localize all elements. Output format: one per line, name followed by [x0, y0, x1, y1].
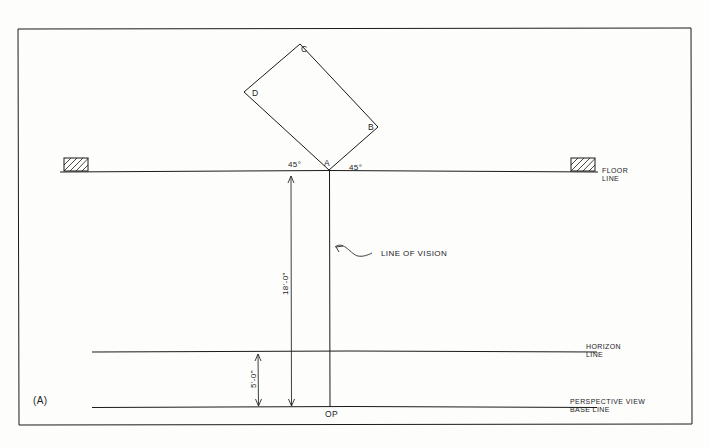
vertex-label-c: C: [301, 44, 308, 54]
vertex-label-a: A: [324, 158, 330, 168]
vertex-label-b: B: [368, 122, 374, 132]
floor-line-label-1: FLOOR: [602, 167, 628, 174]
floor-line-label-2: LINE: [602, 175, 619, 182]
line-of-vision-line: [330, 170, 331, 407]
angle-label-right: 45°: [349, 163, 362, 172]
perspective-base-line-group: [92, 407, 597, 408]
square-plan-object: [244, 44, 378, 170]
horizon-line-label-1: HORIZON: [586, 343, 621, 350]
floor-line-right-block: [571, 158, 595, 171]
floor-line-group: [60, 171, 598, 173]
figure-label: (A): [33, 395, 48, 406]
horizon-line-group: [92, 351, 597, 352]
floor-line-left-block: [64, 158, 88, 171]
line-of-vision-leader: [335, 245, 372, 256]
horizon-line-label-2: LINE: [586, 351, 603, 358]
drawing-canvas: C D B A 45° 45° FLOOR LINE HORIZON LINE …: [0, 0, 710, 448]
observation-point-label: OP: [325, 409, 338, 419]
vertex-label-d: D: [252, 88, 259, 98]
angle-label-left: 45°: [288, 160, 301, 169]
drawing-border: [18, 28, 692, 425]
perspective-layout-diagram: C D B A 45° 45° FLOOR LINE HORIZON LINE …: [0, 0, 710, 448]
line-of-vision-label: LINE OF VISION: [381, 249, 447, 258]
perspective-base-line-label-2: BASE LINE: [570, 406, 610, 413]
perspective-base-line-label-1: PERSPECTIVE VIEW: [570, 398, 645, 405]
station-distance-label: 18'-0": [281, 272, 290, 295]
eye-height-label: 5'-0": [249, 370, 258, 388]
